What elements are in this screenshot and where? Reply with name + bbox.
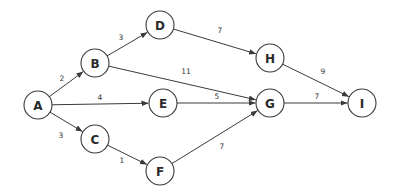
node-label: B xyxy=(90,57,99,71)
node-label: I xyxy=(360,97,364,111)
node-i: I xyxy=(348,89,376,117)
edge-a-b: 2 xyxy=(49,72,83,97)
edge-weight-label: 9 xyxy=(321,67,326,76)
node-label: C xyxy=(91,133,100,147)
edge-d-h: 7 xyxy=(173,26,256,54)
edge-weight-label: 5 xyxy=(215,92,220,101)
edge-b-g: 11 xyxy=(109,66,256,100)
edge-arrow xyxy=(172,111,258,164)
edge-arrow xyxy=(173,29,256,54)
edge-arrow xyxy=(50,112,83,131)
node-f: F xyxy=(146,157,174,185)
edge-weight-label: 7 xyxy=(218,26,223,35)
node-h: H xyxy=(256,44,284,72)
edge-weight-label: 3 xyxy=(119,33,124,42)
node-g: G xyxy=(256,89,284,117)
edge-arrow xyxy=(107,32,147,56)
edge-weight-label: 4 xyxy=(98,93,103,102)
edge-weight-label: 7 xyxy=(220,142,225,151)
edge-weight-label: 3 xyxy=(59,131,64,140)
node-label: F xyxy=(156,165,164,179)
edge-weight-label: 1 xyxy=(120,156,125,165)
edge-g-i: 7 xyxy=(284,92,348,104)
node-label: D xyxy=(155,19,165,33)
node-a: A xyxy=(24,91,52,119)
node-label: G xyxy=(265,97,275,111)
edge-arrow xyxy=(49,72,83,97)
edge-weight-label: 7 xyxy=(315,92,320,101)
graph-diagram: 243311175797 ABCDEFGHI xyxy=(0,0,396,194)
edge-a-c: 3 xyxy=(50,112,83,139)
node-e: E xyxy=(149,89,177,117)
edge-f-g: 7 xyxy=(172,111,258,164)
node-label: H xyxy=(265,52,275,66)
node-d: D xyxy=(146,11,174,39)
edge-c-f: 1 xyxy=(108,145,147,164)
edge-b-d: 3 xyxy=(107,32,147,56)
edge-a-e: 4 xyxy=(52,93,149,105)
edge-arrow xyxy=(108,145,147,164)
edge-weight-label: 2 xyxy=(60,74,65,83)
edge-weight-label: 11 xyxy=(181,67,191,76)
node-label: E xyxy=(159,97,167,111)
node-b: B xyxy=(81,49,109,77)
node-c: C xyxy=(81,125,109,153)
node-label: A xyxy=(33,99,43,113)
edge-arrow xyxy=(52,103,149,105)
